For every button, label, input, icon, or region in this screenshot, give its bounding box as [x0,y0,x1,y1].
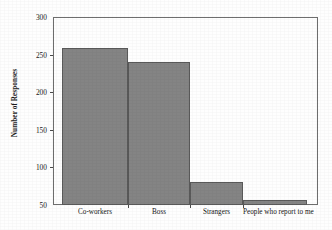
y-tick-label: 250 [7,50,47,59]
x-tick-label: Boss [128,208,190,216]
bar [62,48,128,205]
x-tick-label: Co-workers [62,208,128,216]
y-tick-label: 100 [7,163,47,172]
y-tick-label: 200 [7,88,47,97]
y-tick-label: 300 [7,13,47,22]
plot-area [53,17,318,205]
bar [190,182,243,205]
x-tick-label: Strangers [190,208,243,216]
y-tick-label: 150 [7,125,47,134]
bar [243,200,307,205]
y-axis-title: Number of Responses [8,0,22,205]
bar [128,62,190,205]
bar-chart-figure: Number of Responses 30025020015010050 Co… [0,0,332,230]
y-tick-label: 50 [7,201,47,210]
x-tick-label: People who report to me [243,208,307,216]
